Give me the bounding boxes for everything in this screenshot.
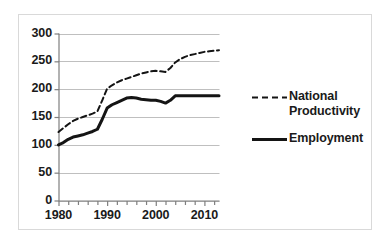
y-tick-label: 250 xyxy=(18,53,52,67)
y-tick-label: 50 xyxy=(18,165,52,179)
legend-label-1: National xyxy=(289,89,338,103)
x-tick-label: 2000 xyxy=(133,208,179,222)
x-tick-label: 1980 xyxy=(36,208,82,222)
legend-label-2: Employment xyxy=(289,131,363,145)
chart-figure: 300250200150100500 1980199020002010 Nati… xyxy=(0,0,389,245)
legend-line-swatches xyxy=(252,98,287,140)
y-tick-label: 300 xyxy=(18,26,52,40)
y-tick-label: 100 xyxy=(18,137,52,151)
y-tick-label: 0 xyxy=(18,193,52,207)
y-tick-label: 150 xyxy=(18,109,52,123)
series-line-1 xyxy=(59,50,220,132)
x-tick-label: 2010 xyxy=(181,208,227,222)
data-series-group xyxy=(59,50,220,145)
y-tick-label: 200 xyxy=(18,81,52,95)
series-line-2 xyxy=(59,96,220,145)
y-axis-ticks xyxy=(55,34,60,201)
x-tick-label: 1990 xyxy=(84,208,130,222)
legend-label-1-line2: Productivity xyxy=(289,104,360,118)
